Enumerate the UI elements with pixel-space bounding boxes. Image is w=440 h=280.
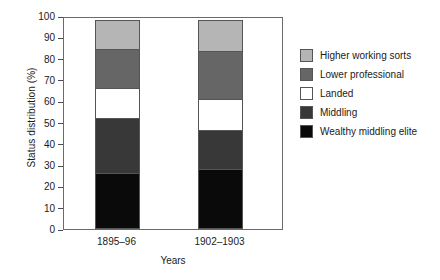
legend-item[interactable]: Higher working sorts [300, 46, 417, 65]
legend-label: Wealthy middling elite [320, 126, 417, 137]
legend-swatch [300, 68, 313, 81]
y-tick-label: 60 [44, 95, 55, 108]
y-tick-label: 0 [49, 223, 55, 236]
legend-item[interactable]: Wealthy middling elite [300, 122, 417, 141]
legend-swatch [300, 125, 313, 138]
legend-swatch [300, 106, 313, 119]
legend-swatch [300, 49, 313, 62]
legend-swatch [300, 87, 313, 100]
legend-item[interactable]: Lower professional [300, 65, 417, 84]
bar-segment[interactable] [198, 99, 243, 131]
y-tick-label: 20 [44, 180, 55, 193]
bar-segment[interactable] [198, 130, 243, 170]
legend-label: Lower professional [320, 69, 404, 80]
legend-item[interactable]: Landed [300, 84, 417, 103]
plot-area [63, 17, 283, 230]
y-tick-label: 10 [44, 202, 55, 215]
y-axis-title: Status distribution (%) [26, 38, 37, 198]
y-tick-label: 90 [44, 31, 55, 44]
bar-segment[interactable] [95, 49, 140, 89]
bar-segment[interactable] [95, 88, 140, 119]
bar-segment[interactable] [95, 20, 140, 50]
legend-item[interactable]: Middling [300, 103, 417, 122]
legend: Higher working sortsLower professionalLa… [300, 46, 417, 141]
x-axis-label: 1895–96 [62, 236, 172, 247]
y-tick-label: 70 [44, 74, 55, 87]
bar-segment[interactable] [198, 169, 243, 229]
bar-segment[interactable] [198, 20, 243, 52]
y-tick-label: 80 [44, 53, 55, 66]
bar-2[interactable] [198, 20, 243, 229]
x-axis-title: Years [63, 255, 283, 266]
stacked-bar-chart: Status distribution (%) 0102030405060708… [0, 0, 440, 280]
y-tick-label: 50 [44, 117, 55, 130]
legend-label: Middling [320, 107, 357, 118]
legend-label: Landed [320, 88, 353, 99]
y-tick-label: 100 [38, 10, 55, 23]
bar-segment[interactable] [198, 51, 243, 100]
x-axis-label: 1902–1903 [165, 236, 275, 247]
bar-segment[interactable] [95, 173, 140, 229]
bar-segment[interactable] [95, 118, 140, 173]
y-tick-label: 30 [44, 159, 55, 172]
y-tick-label: 40 [44, 138, 55, 151]
legend-label: Higher working sorts [320, 50, 411, 61]
bar-1[interactable] [95, 20, 140, 229]
